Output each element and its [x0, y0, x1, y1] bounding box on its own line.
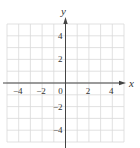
coordinate-plane: −4−2024 42−2−4 x y	[0, 0, 140, 148]
y-axis-arrow-icon	[63, 17, 67, 24]
x-tick-label: 2	[86, 86, 91, 96]
x-tick-label: −2	[36, 86, 46, 96]
x-tick-label: 4	[109, 86, 114, 96]
y-tick-label: −4	[53, 125, 63, 135]
y-axis-label: y	[60, 5, 66, 17]
x-tick-label: −4	[13, 86, 23, 96]
x-axis-arrow-icon	[119, 81, 126, 85]
y-tick-label: 2	[58, 54, 63, 64]
y-tick-label: 4	[58, 31, 63, 41]
y-tick-label: −2	[53, 102, 63, 112]
x-tick-label: 0	[58, 86, 63, 96]
axes	[3, 17, 126, 148]
x-axis-label: x	[128, 77, 134, 89]
